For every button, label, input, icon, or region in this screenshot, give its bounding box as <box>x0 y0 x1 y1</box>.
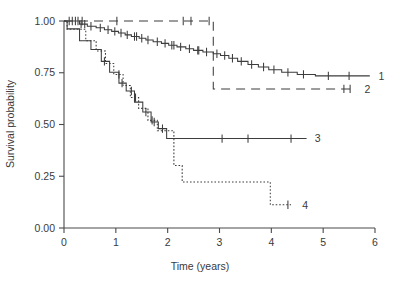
x-tick-label: 4 <box>268 236 274 248</box>
series-label-4: 4 <box>302 199 308 211</box>
y-axis-title: Survival probability <box>4 79 16 168</box>
survival-curve-4 <box>64 21 291 205</box>
y-tick-label: 0.50 <box>35 118 56 130</box>
series-label-1: 1 <box>378 70 384 82</box>
y-tick-label: 0.25 <box>35 170 56 182</box>
x-tick-label: 3 <box>217 236 223 248</box>
survival-plot-svg: 01234560.000.250.500.751.00 1234 Time (y… <box>0 0 400 284</box>
curves-layer <box>64 17 370 209</box>
x-tick-label: 2 <box>165 236 171 248</box>
x-tick-label: 1 <box>113 236 119 248</box>
x-tick-label: 0 <box>61 236 67 248</box>
survival-curve-3 <box>64 21 307 139</box>
x-axis-title: Time (years) <box>171 260 230 272</box>
series-label-3: 3 <box>315 132 321 144</box>
series-labels-layer: 1234 <box>302 70 384 211</box>
y-tick-label: 1.00 <box>35 15 56 27</box>
kaplan-meier-chart: 01234560.000.250.500.751.00 1234 Time (y… <box>0 0 400 284</box>
y-tick-label: 0.75 <box>35 66 56 78</box>
x-tick-label: 6 <box>372 236 378 248</box>
x-tick-label: 5 <box>320 236 326 248</box>
y-tick-label: 0.00 <box>35 222 56 234</box>
series-label-2: 2 <box>364 83 370 95</box>
